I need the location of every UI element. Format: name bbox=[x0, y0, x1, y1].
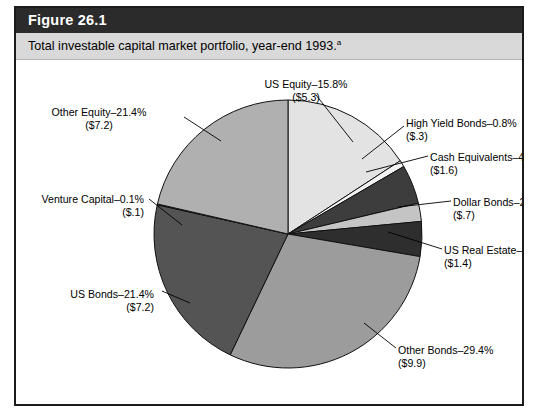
callout-venture-capital: Venture Capital–0.1% ($.1) bbox=[16, 193, 144, 218]
callout-us-real-estate: US Real Estate–4.2% ($1.4) bbox=[444, 244, 524, 269]
figure-caption-text: Total investable capital market portfoli… bbox=[28, 39, 337, 53]
callout-other-bonds: Other Bonds–29.4% ($9.9) bbox=[398, 344, 493, 369]
callout-other-bonds-amount: ($9.9) bbox=[398, 357, 493, 370]
callout-us-equity-amount: ($5.3) bbox=[231, 91, 381, 104]
callout-other-bonds-label: Other Bonds–29.4% bbox=[398, 344, 493, 356]
callout-dollar-bonds: Dollar Bonds–2.2% ($.7) bbox=[453, 196, 524, 221]
callout-venture-capital-amount: ($.1) bbox=[16, 206, 144, 219]
callout-other-equity: Other Equity–21.4% ($7.2) bbox=[24, 106, 174, 131]
callout-cash-equivalents-amount: ($1.6) bbox=[430, 164, 524, 177]
figure-caption-footnote-marker: a bbox=[337, 38, 341, 47]
pie-slice-group bbox=[154, 100, 422, 368]
figure-header-bar: Figure 26.1 bbox=[16, 8, 522, 33]
callout-us-equity-label: US Equity–15.8% bbox=[264, 78, 347, 90]
callout-cash-equivalents: Cash Equivalents–4.7% ($1.6) bbox=[430, 151, 524, 176]
callout-high-yield-bonds-label: High Yield Bonds–0.8% bbox=[406, 117, 517, 129]
callout-us-bonds-amount: ($7.2) bbox=[16, 301, 154, 314]
callout-us-real-estate-amount: ($1.4) bbox=[444, 257, 524, 270]
figure-caption: Total investable capital market portfoli… bbox=[28, 38, 341, 53]
figure-number-label: Figure 26.1 bbox=[28, 12, 107, 28]
callout-us-real-estate-label: US Real Estate–4.2% bbox=[444, 244, 524, 256]
callout-high-yield-bonds-amount: ($.3) bbox=[406, 130, 517, 143]
callout-us-bonds: US Bonds–21.4% ($7.2) bbox=[16, 288, 154, 313]
callout-us-bonds-label: US Bonds–21.4% bbox=[70, 288, 154, 300]
callout-dollar-bonds-amount: ($.7) bbox=[453, 209, 524, 222]
figure-caption-bar: Total investable capital market portfoli… bbox=[16, 33, 522, 60]
figure-frame: Figure 26.1 Total investable capital mar… bbox=[14, 6, 524, 406]
pie-chart-area: US Equity–15.8% ($5.3) High Yield Bonds–… bbox=[16, 60, 522, 406]
callout-other-equity-amount: ($7.2) bbox=[24, 119, 174, 132]
callout-us-equity: US Equity–15.8% ($5.3) bbox=[231, 78, 381, 103]
callout-other-equity-label: Other Equity–21.4% bbox=[52, 106, 147, 118]
callout-dollar-bonds-label: Dollar Bonds–2.2% bbox=[453, 196, 524, 208]
callout-venture-capital-label: Venture Capital–0.1% bbox=[42, 193, 144, 205]
callout-cash-equivalents-label: Cash Equivalents–4.7% bbox=[430, 151, 524, 163]
callout-high-yield-bonds: High Yield Bonds–0.8% ($.3) bbox=[406, 117, 517, 142]
